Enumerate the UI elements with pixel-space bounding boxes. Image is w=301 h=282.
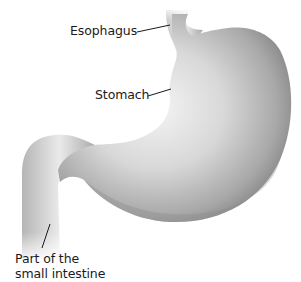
stomach-label: Stomach (95, 87, 149, 102)
stomach-leader-line (148, 89, 171, 96)
esophagus-leader-line (137, 25, 170, 32)
small-intestine-label-line2: small intestine (15, 266, 105, 281)
stomach-diagram (0, 0, 301, 282)
small-intestine-label: Part of the small intestine (15, 251, 105, 281)
esophagus-label: Esophagus (70, 23, 137, 38)
small-intestine-label-line1: Part of the (15, 251, 105, 266)
